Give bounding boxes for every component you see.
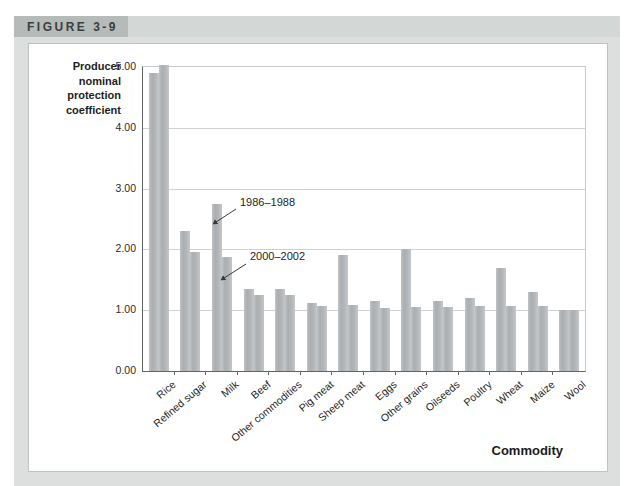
bar-wheat-period2 — [506, 306, 516, 371]
bar-wheat-period1 — [496, 268, 506, 371]
bar-refined-sugar-period2 — [190, 252, 200, 371]
y-tick-label: 1.00 — [102, 303, 136, 315]
x-axis-tick — [426, 371, 427, 375]
bar-milk-period2 — [222, 257, 232, 371]
x-axis-tick — [205, 371, 206, 375]
y-tick-label: 2.00 — [102, 242, 136, 254]
bar-refined-sugar-period1 — [180, 231, 190, 371]
bar-maize-period1 — [528, 292, 538, 371]
bar-eggs-period1 — [370, 301, 380, 371]
y-tick-label: 0.00 — [102, 364, 136, 376]
x-axis-tick — [300, 371, 301, 375]
gridline — [143, 310, 585, 311]
figure-label: FIGURE 3-9 — [14, 20, 118, 34]
chart-box: Producer nominal protection coefficient … — [28, 43, 608, 472]
bar-other-commodities-period1 — [275, 289, 285, 371]
y-tick-label: 3.00 — [102, 182, 136, 194]
bar-wool-period1 — [559, 310, 569, 371]
bar-wool-period2 — [569, 310, 579, 371]
screenshot-root: FIGURE 3-9 Producer nominal protection c… — [0, 0, 631, 486]
x-axis-tick — [489, 371, 490, 375]
bar-oilseeds-period2 — [443, 307, 453, 371]
figure-label-box: FIGURE 3-9 — [14, 16, 128, 37]
annotation-label: 2000–2002 — [250, 250, 305, 262]
bar-poultry-period1 — [465, 298, 475, 371]
x-axis-tick — [331, 371, 332, 375]
gridline — [143, 189, 585, 190]
bar-maize-period2 — [538, 306, 548, 371]
bar-eggs-period2 — [380, 308, 390, 371]
bar-pig-meat-period1 — [307, 303, 317, 371]
x-axis-tick — [395, 371, 396, 375]
bar-beef-period2 — [254, 295, 264, 371]
annotation-label: 1986–1988 — [240, 196, 295, 208]
bar-other-grains-period2 — [411, 307, 421, 371]
y-tick-label: 5.00 — [102, 60, 136, 72]
x-axis-tick — [363, 371, 364, 375]
gridline — [143, 128, 585, 129]
gridline — [143, 249, 585, 250]
x-axis-tick — [268, 371, 269, 375]
y-tick-label: 4.00 — [102, 121, 136, 133]
figure-header-band: FIGURE 3-9 — [14, 16, 620, 37]
bar-sheep-meat-period2 — [348, 305, 358, 371]
bar-beef-period1 — [244, 289, 254, 371]
x-axis-tick — [174, 371, 175, 375]
bar-rice-period2 — [159, 65, 169, 371]
bar-oilseeds-period1 — [433, 301, 443, 371]
figure-panel: FIGURE 3-9 Producer nominal protection c… — [14, 16, 620, 486]
x-axis-tick — [552, 371, 553, 375]
x-axis-tick — [458, 371, 459, 375]
bar-other-commodities-period2 — [285, 295, 295, 371]
x-axis-tick — [237, 371, 238, 375]
bar-poultry-period2 — [475, 306, 485, 371]
bar-sheep-meat-period1 — [338, 255, 348, 371]
bar-other-grains-period1 — [401, 249, 411, 371]
bar-pig-meat-period2 — [317, 306, 327, 371]
bar-milk-period1 — [212, 204, 222, 371]
x-axis-tick — [521, 371, 522, 375]
bar-rice-period1 — [149, 73, 159, 371]
plot-area — [142, 66, 586, 372]
